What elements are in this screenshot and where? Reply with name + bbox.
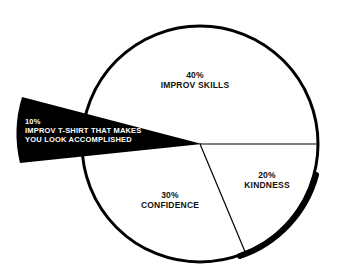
label-pct: 40% [150, 70, 240, 80]
label-name: CONFIDENCE [130, 200, 210, 210]
label-kindness: 20% KINDNESS [232, 170, 302, 190]
label-confidence: 30% CONFIDENCE [130, 190, 210, 210]
label-name: IMPROV SKILLS [150, 80, 240, 90]
label-tshirt: 10% IMPROV T-SHIRT THAT MAKES YOU LOOK A… [25, 117, 185, 144]
label-pct: 10% [25, 117, 185, 126]
label-improv-skills: 40% IMPROV SKILLS [150, 70, 240, 90]
label-name-line1: IMPROV T-SHIRT THAT MAKES [25, 126, 185, 135]
label-name-line2: YOU LOOK ACCOMPLISHED [25, 135, 185, 144]
label-name: KINDNESS [232, 180, 302, 190]
label-pct: 30% [130, 190, 210, 200]
label-pct: 20% [232, 170, 302, 180]
